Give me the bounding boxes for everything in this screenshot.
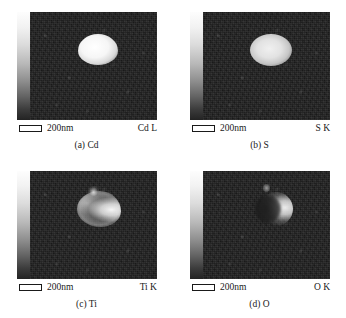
map-grain-a [30,12,157,120]
element-line-label-d: O K [314,281,330,294]
intensity-colorbar [190,171,203,279]
element-line-label-b: S K [315,122,330,135]
intensity-colorbar [190,12,203,120]
element-line-label-c: Ti K [140,281,157,294]
panel-b-s: 200nm S K (b) S [173,0,346,159]
map-field-a [30,12,157,120]
scale-bar-icon [19,284,42,291]
intensity-colorbar [17,171,30,279]
panel-c-ti: 200nm Ti K (c) Ti [0,159,173,318]
map-image-b [190,12,330,120]
scale-bar-label: 200nm [220,281,246,294]
panel-a-cd: 200nm Cd L (a) Cd [0,0,173,159]
intensity-colorbar [17,12,30,120]
scale-bar-label: 200nm [47,281,73,294]
panel-caption-c: (c) Ti [0,298,173,311]
panel-d-o: 200nm O K (d) O [173,159,346,318]
map-grain-c [30,171,157,279]
element-line-label-a: Cd L [138,122,157,135]
scale-bar-icon [19,125,42,132]
eds-element-map-figure: 200nm Cd L (a) Cd 200nm S K (b) S [0,0,346,318]
scale-bar-icon [192,125,215,132]
panel-caption-a: (a) Cd [0,139,173,152]
map-grain-d [203,171,330,279]
map-field-b [203,12,330,120]
scale-row-b: 200nm S K [190,122,330,136]
scale-row-d: 200nm O K [190,281,330,295]
scale-bar-icon [192,284,215,291]
panel-caption-b: (b) S [173,139,346,152]
map-field-c [30,171,157,279]
scale-bar-label: 200nm [47,122,73,135]
map-image-d [190,171,330,279]
map-field-d [203,171,330,279]
map-image-c [17,171,157,279]
map-image-a [17,12,157,120]
scale-row-a: 200nm Cd L [17,122,157,136]
panel-caption-d: (d) O [173,298,346,311]
scale-bar-label: 200nm [220,122,246,135]
map-grain-b [203,12,330,120]
scale-row-c: 200nm Ti K [17,281,157,295]
